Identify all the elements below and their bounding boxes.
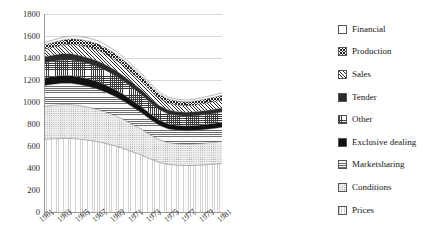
legend-item-conditions[interactable]: Conditions <box>338 176 444 199</box>
y-axis-tick-label: 0 <box>6 208 40 217</box>
legend-swatch-icon <box>338 183 347 192</box>
y-axis-tick-label: 800 <box>6 120 40 129</box>
y-axis-tick-label: 1000 <box>6 98 40 107</box>
legend-item-label: Tender <box>352 93 377 102</box>
legend-swatch-icon <box>338 206 347 215</box>
legend-item-label: Production <box>352 47 392 56</box>
chart-legend: FinancialProductionSalesTenderOtherExclu… <box>338 18 444 221</box>
legend-swatch-icon <box>338 160 347 169</box>
y-axis-tick-label: 1800 <box>6 10 40 19</box>
y-axis-labels: 180016001400120010008006004002000 <box>0 0 40 212</box>
legend-item-label: Conditions <box>352 183 392 192</box>
legend-swatch-icon <box>338 93 347 102</box>
legend-swatch-icon <box>338 115 347 124</box>
legend-item-label: Other <box>352 115 373 124</box>
legend-swatch-icon <box>338 138 347 147</box>
legend-swatch-icon <box>338 70 347 79</box>
y-axis-tick-label: 400 <box>6 164 40 173</box>
legend-swatch-icon <box>338 47 347 56</box>
stacked-area-bands <box>44 14 222 212</box>
legend-item-label: Marketsharing <box>352 160 404 169</box>
legend-item-sales[interactable]: Sales <box>338 63 444 86</box>
legend-item-other[interactable]: Other <box>338 108 444 131</box>
y-axis-tick-label: 1400 <box>6 54 40 63</box>
y-axis-tick-label: 1200 <box>6 76 40 85</box>
plot-area <box>44 14 222 212</box>
legend-item-label: Sales <box>352 70 371 79</box>
legend-item-label: Financial <box>352 25 386 34</box>
legend-item-prices[interactable]: Prices <box>338 199 444 222</box>
y-axis-tick-label: 1600 <box>6 32 40 41</box>
legend-item-production[interactable]: Production <box>338 41 444 64</box>
legend-item-tender[interactable]: Tender <box>338 86 444 109</box>
y-axis-tick-label: 600 <box>6 142 40 151</box>
stacked-area-chart: 180016001400120010008006004002000 196119… <box>0 0 444 251</box>
legend-item-exclusive[interactable]: Exclusive dealing <box>338 131 444 154</box>
legend-swatch-icon <box>338 25 347 34</box>
legend-item-marketsharing[interactable]: Marketsharing <box>338 154 444 177</box>
y-axis-tick-label: 200 <box>6 186 40 195</box>
legend-item-label: Prices <box>352 206 374 215</box>
legend-item-financial[interactable]: Financial <box>338 18 444 41</box>
legend-item-label: Exclusive dealing <box>352 138 416 147</box>
